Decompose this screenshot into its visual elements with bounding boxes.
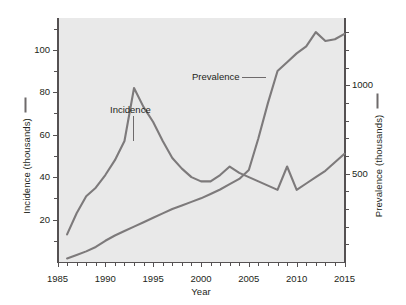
incidence-line bbox=[67, 88, 344, 234]
prevalence-leader-line bbox=[242, 77, 266, 78]
incidence-legend-dash-icon bbox=[25, 97, 27, 112]
series-lines bbox=[0, 0, 406, 305]
prevalence-line bbox=[67, 32, 344, 258]
y-axis-right-title: Prevalence (thousands) bbox=[373, 86, 384, 226]
incidence-annotation-label: Incidence bbox=[110, 104, 151, 115]
y-axis-left-title: Incidence (thousands) bbox=[21, 86, 32, 226]
x-axis-title: Year bbox=[191, 286, 211, 297]
prevalence-annotation-label: Prevalence bbox=[192, 71, 240, 82]
chart-figure: 20406080100 5001000 19851990199520002005… bbox=[0, 0, 406, 305]
y-axis-left-title-text: Incidence (thousands) bbox=[21, 118, 32, 214]
incidence-leader-line bbox=[133, 116, 134, 141]
prevalence-legend-dash-icon bbox=[377, 94, 379, 109]
y-axis-right-title-text: Prevalence (thousands) bbox=[373, 115, 384, 218]
